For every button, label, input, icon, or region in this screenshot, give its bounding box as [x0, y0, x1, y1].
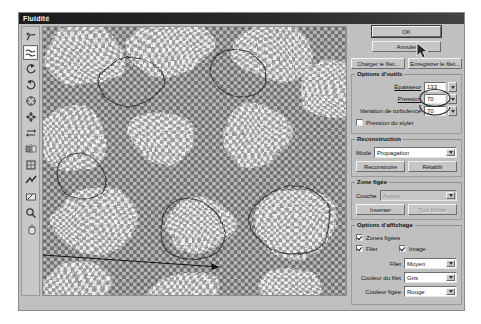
image-checkbox[interactable] — [399, 245, 406, 252]
frozen-areas-row[interactable]: Zones figées — [356, 233, 457, 242]
frozen-color-label: Couleur figée — [356, 289, 401, 295]
frozen-channel-row: Couche Aucun — [356, 190, 457, 201]
brush-size-stepper[interactable] — [448, 82, 457, 92]
stylus-pressure-label: Pression du stylet — [366, 120, 413, 126]
twirl-clockwise-tool[interactable] — [23, 61, 38, 76]
mesh-io-buttons: Charger le filet... Enregistrer le filet… — [351, 58, 462, 69]
ok-button[interactable]: OK — [372, 26, 441, 37]
mesh-size-value: Moyen — [405, 261, 425, 267]
mesh-checkbox[interactable] — [356, 245, 363, 252]
invert-frozen-button[interactable]: Inverser — [356, 204, 405, 215]
tools-palette — [21, 26, 40, 296]
dialog-titlebar: Fluidité — [19, 13, 464, 24]
frozen-color-select[interactable]: Rouge — [404, 286, 457, 297]
zoom-tool[interactable] — [23, 205, 38, 220]
chevron-down-icon[interactable] — [446, 274, 455, 281]
cancel-button[interactable]: Annuler — [372, 41, 441, 52]
frozen-areas-checkbox[interactable] — [356, 234, 363, 241]
mesh-size-row: Filet Moyen — [356, 258, 457, 269]
reconstruction-buttons: Reconstruire Rétablir — [356, 161, 457, 172]
display-options-label: Options d'affichage — [355, 222, 415, 228]
frozen-area-group: Zone figée Couche Aucun Inverser Tout li… — [351, 182, 462, 220]
frozen-color-row: Couleur figée Rouge — [356, 286, 457, 297]
frozen-color-value: Rouge — [405, 289, 425, 295]
chevron-down-icon — [451, 86, 455, 89]
pressure-label: Pression — [398, 96, 421, 102]
hand-tool[interactable] — [23, 221, 38, 236]
reconstruction-mode-row: Mode Propagation — [356, 147, 457, 158]
frozen-area-label: Zone figée — [355, 179, 389, 185]
mesh-size-label: Filet — [356, 261, 401, 267]
mesh-color-label: Couleur du filet — [356, 275, 401, 281]
twirl-counterclockwise-tool[interactable] — [23, 77, 38, 92]
frozen-areas-label: Zones figées — [366, 235, 400, 241]
stylus-pressure-checkbox[interactable] — [356, 119, 363, 126]
stylus-pressure-row[interactable]: Pression du stylet — [356, 118, 457, 127]
reflection-tool[interactable] — [23, 141, 38, 156]
chevron-down-icon — [451, 110, 455, 113]
frozen-channel-label: Couche — [356, 193, 377, 199]
image-label: Image — [409, 246, 426, 252]
options-panel: OK Annuler Charger le filet... Enregistr… — [351, 26, 462, 310]
chevron-down-icon[interactable] — [446, 260, 455, 267]
chevron-down-icon — [446, 192, 455, 199]
turbulence-stepper[interactable] — [448, 106, 457, 116]
display-options-group: Options d'affichage Zones figées Filet I… — [351, 225, 462, 305]
reconstruction-group: Reconstruction Mode Propagation Reconstr… — [351, 139, 462, 177]
freeze-tool[interactable] — [23, 173, 38, 188]
reconstruct-button[interactable]: Reconstruire — [356, 161, 405, 172]
frozen-area-buttons: Inverser Tout libérer — [356, 204, 457, 215]
load-mesh-button[interactable]: Charger le filet... — [351, 58, 405, 69]
dialog-title: Fluidité — [23, 15, 50, 22]
turbulence-row: Variation de turbulence 70 — [356, 106, 457, 116]
bloat-tool[interactable] — [23, 109, 38, 124]
mesh-color-row: Couleur du filet Gris — [356, 272, 457, 283]
shift-pixels-tool[interactable] — [23, 125, 38, 140]
pressure-stepper[interactable] — [448, 94, 457, 104]
mesh-size-select[interactable]: Moyen — [404, 258, 457, 269]
tool-options-label: Options d'outils — [355, 71, 404, 77]
revert-button[interactable]: Rétablir — [408, 161, 457, 172]
warp-tool[interactable] — [23, 29, 38, 44]
pressure-input[interactable]: 70 — [424, 94, 446, 104]
chevron-down-icon[interactable] — [446, 288, 455, 295]
reconstruction-mode-select[interactable]: Propagation — [374, 147, 457, 158]
turbulence-input[interactable]: 70 — [424, 106, 446, 116]
mesh-color-value: Gris — [405, 275, 418, 281]
frozen-channel-value: Aucun — [381, 193, 400, 199]
liquify-preview-canvas[interactable] — [42, 26, 347, 296]
reconstruction-mode-label: Mode — [356, 150, 371, 156]
tool-options-group: Options d'outils Épaisseur 133 Pression … — [351, 74, 462, 134]
mesh-image-row: Filet Image — [356, 244, 457, 253]
brush-size-label: Épaisseur — [394, 84, 421, 90]
pucker-tool[interactable] — [23, 93, 38, 108]
mesh-label: Filet — [366, 246, 399, 252]
frozen-channel-select: Aucun — [380, 190, 457, 201]
chevron-down-icon[interactable] — [446, 149, 455, 156]
reconstruct-tool[interactable] — [23, 157, 38, 172]
turbulence-label: Variation de turbulence — [360, 108, 421, 114]
reconstruction-label: Reconstruction — [355, 136, 403, 142]
chevron-down-icon — [451, 98, 455, 101]
pressure-row: Pression 70 — [356, 94, 457, 104]
turbulence-tool[interactable] — [23, 45, 38, 60]
thaw-tool[interactable] — [23, 189, 38, 204]
thaw-all-button: Tout libérer — [408, 204, 457, 215]
mesh-preview — [43, 27, 347, 296]
screenshot-root: Fluidité — [0, 0, 481, 324]
brush-size-row: Épaisseur 133 — [356, 82, 457, 92]
brush-size-input[interactable]: 133 — [424, 82, 446, 92]
reconstruction-mode-value: Propagation — [375, 150, 409, 156]
liquify-dialog: Fluidité — [18, 12, 465, 311]
mesh-color-select[interactable]: Gris — [404, 272, 457, 283]
dialog-body: OK Annuler Charger le filet... Enregistr… — [19, 24, 464, 310]
save-mesh-button[interactable]: Enregistrer le filet... — [408, 58, 462, 69]
